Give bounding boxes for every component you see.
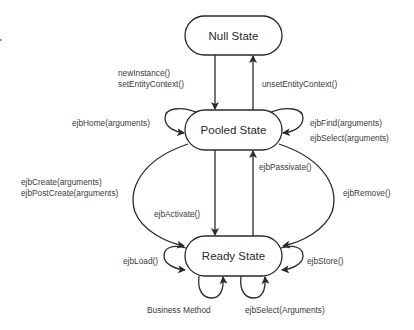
edge-pooled-to-ready-create (133, 144, 188, 246)
label-unset-entity-context: unsetEntityContext() (262, 79, 337, 89)
edge-remove (279, 144, 334, 246)
null-state-node: Null State (185, 16, 282, 55)
label-ejb-activate: ejbActivate() (154, 209, 200, 219)
label-ejb-load: ejbLoad() (123, 256, 158, 266)
edge-ready-self-right (281, 246, 303, 270)
edge-ready-ejb-select (241, 276, 265, 298)
label-ejb-home: ejbHome(arguments) (72, 118, 150, 128)
label-new-instance: newInstance() (118, 68, 170, 78)
label-ejb-remove: ejbRemove() (343, 188, 391, 198)
ready-state-label: Ready State (202, 250, 265, 262)
label-ejb-post-create: ejbPostCreate(arguments) (21, 188, 119, 198)
pooled-state-node: Pooled State (185, 110, 282, 150)
edge-ready-business-method (199, 276, 223, 298)
state-diagram: Null State Pooled State Ready State newI… (0, 0, 414, 330)
label-ejb-store: ejbStore() (307, 256, 344, 266)
label-ejb-select-ready: ejbSelect(Arguments) (245, 305, 325, 315)
null-state-label: Null State (209, 30, 259, 42)
label-ejb-create: ejbCreate(arguments) (21, 177, 102, 187)
label-business-method: Business Method (147, 305, 211, 315)
edge-ready-self-left (164, 246, 186, 270)
label-ejb-select-pooled: ejbSelect(arguments) (310, 133, 389, 143)
pooled-state-label: Pooled State (201, 124, 267, 136)
label-ejb-passivate: ejbPassivate() (259, 162, 312, 172)
ready-state-node: Ready State (185, 236, 282, 276)
label-set-entity-context: setEntityContext() (118, 79, 184, 89)
label-ejb-find: ejbFind(arguments) (310, 118, 382, 128)
stray-mark (0, 39, 2, 41)
